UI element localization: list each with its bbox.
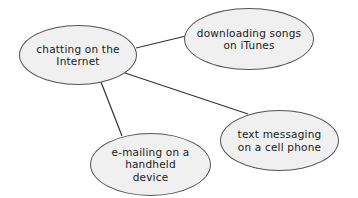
node-label: chatting on the Internet xyxy=(36,43,119,68)
node-label: downloading songs on iTunes xyxy=(197,27,301,52)
edge-chatting-email xyxy=(101,82,122,136)
node-text-messaging: text messaging on a cell phone xyxy=(220,110,339,171)
edge-chatting-texting xyxy=(125,73,248,114)
node-emailing-handheld: e-mailing on a handheld device xyxy=(90,133,211,196)
node-downloading-songs: downloading songs on iTunes xyxy=(184,8,314,70)
concept-map-canvas: chatting on the Internet downloading son… xyxy=(0,0,358,198)
node-chatting-on-internet: chatting on the Internet xyxy=(19,25,137,85)
edge-chatting-itunes xyxy=(136,36,186,48)
node-label: text messaging on a cell phone xyxy=(238,128,322,153)
node-label: e-mailing on a handheld device xyxy=(112,146,190,184)
